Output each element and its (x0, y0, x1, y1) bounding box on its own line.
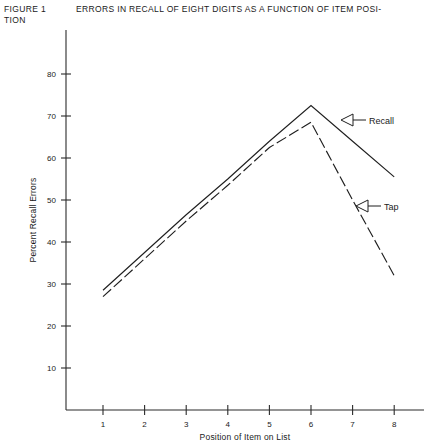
tap-annotation-label: Tap (384, 202, 399, 212)
annotation-tap: Tap (356, 200, 399, 212)
chart-axes (66, 30, 424, 410)
recall-arrow-head-icon (341, 114, 353, 126)
x-tick-label: 8 (392, 420, 397, 429)
x-tick-label: 1 (101, 420, 106, 429)
recall-annotation-label: Recall (369, 116, 394, 126)
chart-canvas: 1020304050607080 12345678 Percent Recall… (0, 0, 436, 447)
x-tick-label: 3 (184, 420, 189, 429)
series-line-recall (103, 106, 394, 291)
y-axis-title: Percent Recall Errors (28, 178, 38, 263)
annotation-recall: Recall (341, 114, 394, 126)
y-tick-label: 60 (47, 154, 56, 163)
x-tick-label: 4 (226, 420, 231, 429)
x-axis-title: Position of Item on List (200, 432, 291, 442)
x-tick-label: 5 (267, 420, 272, 429)
y-tick-group: 1020304050607080 (47, 70, 71, 373)
x-tick-label: 7 (350, 420, 355, 429)
series-line-tap (103, 122, 394, 296)
y-tick-label: 30 (47, 280, 56, 289)
y-tick-label: 70 (47, 112, 56, 121)
figure-root: FIGURE 1ERRORS IN RECALL OF EIGHT DIGITS… (0, 0, 436, 447)
y-tick-label: 40 (47, 238, 56, 247)
y-tick-label: 80 (47, 70, 56, 79)
x-tick-group: 12345678 (101, 405, 397, 429)
y-tick-label: 50 (47, 196, 56, 205)
x-tick-label: 2 (142, 420, 147, 429)
y-tick-label: 20 (47, 322, 56, 331)
x-tick-label: 6 (309, 420, 314, 429)
y-tick-label: 10 (47, 364, 56, 373)
